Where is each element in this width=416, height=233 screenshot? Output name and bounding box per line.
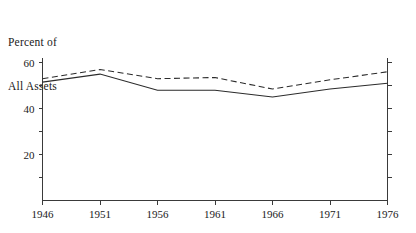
y-axis-ticks: 204060 [24, 57, 43, 178]
x-tick-label: 1946 [32, 208, 55, 220]
x-tick-label: 1956 [147, 208, 170, 220]
x-tick-label: 1961 [204, 208, 226, 220]
line-chart-plot: 204060 1946195119561961196619711976 [0, 0, 416, 233]
data-series-group [43, 69, 388, 97]
series-line-dashed-series [43, 69, 388, 89]
y-tick-label: 40 [24, 103, 36, 115]
x-tick-label: 1976 [377, 208, 400, 220]
x-axis-ticks: 1946195119561961196619711976 [32, 201, 400, 220]
y-tick-label: 20 [24, 149, 36, 161]
x-tick-label: 1966 [262, 208, 285, 220]
x-tick-label: 1951 [89, 208, 111, 220]
y-axis-right-ticks [388, 63, 392, 178]
chart-container: Percent of All Assets 204060 19461951195… [0, 0, 416, 233]
x-tick-label: 1971 [319, 208, 341, 220]
y-tick-label: 60 [24, 57, 36, 69]
